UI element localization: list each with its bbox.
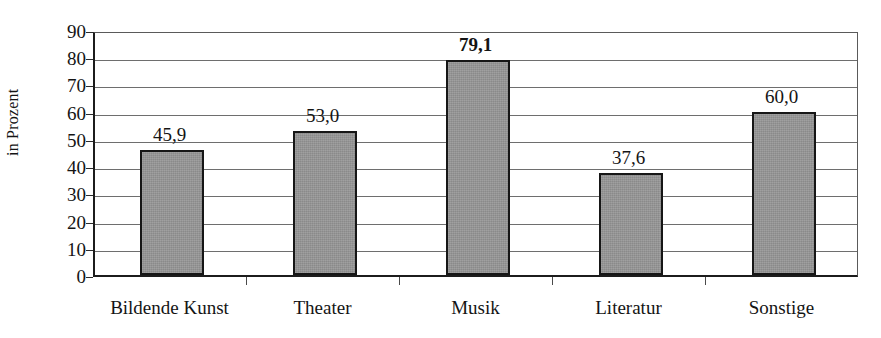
y-axis-tick-label: 80 <box>36 49 86 68</box>
y-axis-title: in Prozent <box>4 6 32 156</box>
y-axis-tick-label: 50 <box>36 131 86 150</box>
y-axis-tick-mark <box>86 223 93 224</box>
plot-area <box>93 32 858 277</box>
x-axis-tick-mark <box>246 277 247 285</box>
bar <box>293 131 357 275</box>
y-axis-tick-label: 30 <box>36 185 86 204</box>
y-axis-tick-label: 60 <box>36 104 86 123</box>
bars-layer <box>95 33 857 275</box>
y-axis-tick-label: 0 <box>36 267 86 286</box>
y-axis-tick-label: 90 <box>36 22 86 41</box>
x-axis-tick-mark <box>552 277 553 285</box>
y-axis-tick-mark <box>86 277 93 278</box>
y-axis-tick-labels: 9080706050403020100 <box>36 0 86 338</box>
x-axis-category-label: Sonstige <box>692 297 872 319</box>
bar <box>752 112 816 275</box>
y-axis-tick-mark <box>86 195 93 196</box>
y-axis-tick-mark <box>86 114 93 115</box>
y-axis-tick-mark <box>86 141 93 142</box>
y-axis-tick-mark <box>86 250 93 251</box>
bar-value-label: 79,1 <box>416 35 536 54</box>
bar <box>140 150 204 275</box>
bar-value-label: 53,0 <box>263 106 383 125</box>
bar-chart: in Prozent 9080706050403020100 45,953,07… <box>0 0 881 338</box>
x-axis-tick-mark <box>705 277 706 285</box>
y-axis-tick-mark <box>86 59 93 60</box>
bar <box>599 173 663 275</box>
y-axis-tick-label: 20 <box>36 213 86 232</box>
bar-value-label: 37,6 <box>569 148 689 167</box>
bar <box>446 60 510 275</box>
y-axis-tick-label: 40 <box>36 158 86 177</box>
y-axis-tick-mark <box>86 86 93 87</box>
y-axis-tick-label: 10 <box>36 240 86 259</box>
bar-value-label: 45,9 <box>110 125 230 144</box>
y-axis-tick-mark <box>86 168 93 169</box>
y-axis-tick-mark <box>86 32 93 33</box>
y-axis-tick-label: 70 <box>36 76 86 95</box>
bar-value-label: 60,0 <box>722 87 842 106</box>
x-axis-tick-mark <box>399 277 400 285</box>
